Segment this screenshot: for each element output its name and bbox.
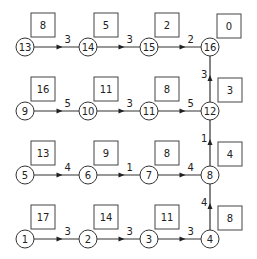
edge-8-12: 1 — [201, 120, 213, 166]
arrow-right-icon — [180, 109, 186, 114]
node-4: 4 — [201, 230, 219, 248]
node-value: 4 — [227, 149, 233, 160]
node-value: 8 — [40, 20, 46, 31]
node-12: 12 — [201, 102, 219, 120]
arrow-right-icon — [57, 173, 63, 178]
arrow-right-icon — [180, 45, 186, 50]
edge-12-16: 3 — [201, 56, 213, 102]
node-label: 11 — [143, 106, 156, 117]
node-value-box-5: 13 — [31, 141, 55, 165]
node-6: 6 — [79, 166, 97, 184]
node-label: 16 — [204, 42, 217, 53]
arrow-up-icon — [208, 203, 213, 209]
arrow-right-icon — [57, 237, 63, 242]
node-value-box-11: 8 — [155, 77, 179, 101]
node-value-box-4: 8 — [218, 206, 242, 230]
node-value-box-1: 17 — [31, 205, 55, 229]
node-label: 9 — [22, 106, 28, 117]
node-3: 3 — [140, 230, 158, 248]
network-diagram: 333441415353332 1714118139841611838520 1… — [0, 0, 257, 259]
node-value: 3 — [227, 85, 233, 96]
edge-weight: 4 — [188, 162, 194, 173]
arrow-up-icon — [208, 75, 213, 81]
node-5: 5 — [16, 166, 34, 184]
node-value-box-9: 16 — [31, 77, 55, 101]
edge-weight: 3 — [127, 98, 133, 109]
node-value: 8 — [164, 148, 170, 159]
edge-weight: 5 — [65, 98, 71, 109]
node-14: 14 — [79, 38, 97, 56]
node-label: 6 — [85, 170, 91, 181]
node-value-box-7: 8 — [155, 141, 179, 165]
node-value: 17 — [37, 212, 50, 223]
node-value-box-6: 9 — [94, 141, 118, 165]
arrow-right-icon — [119, 173, 125, 178]
edge-weight: 1 — [127, 162, 133, 173]
node-value-box-15: 2 — [155, 13, 179, 37]
node-label: 1 — [22, 234, 28, 245]
node-1: 1 — [16, 230, 34, 248]
edge-weight: 1 — [201, 133, 207, 144]
arrow-right-icon — [180, 173, 186, 178]
node-label: 12 — [204, 106, 217, 117]
arrow-right-icon — [57, 45, 63, 50]
edge-weight: 4 — [201, 197, 207, 208]
node-10: 10 — [79, 102, 97, 120]
node-label: 2 — [85, 234, 91, 245]
node-value-box-3: 11 — [155, 205, 179, 229]
node-value: 11 — [100, 84, 113, 95]
arrow-right-icon — [180, 237, 186, 242]
node-label: 13 — [19, 42, 32, 53]
node-label: 15 — [143, 42, 156, 53]
node-value: 11 — [161, 212, 174, 223]
edge-weight: 3 — [201, 69, 207, 80]
node-value-box-16: 0 — [217, 14, 241, 38]
node-value-box-10: 11 — [94, 77, 118, 101]
node-value-box-2: 14 — [94, 205, 118, 229]
node-value: 5 — [103, 20, 109, 31]
node-11: 11 — [140, 102, 158, 120]
node-label: 5 — [22, 170, 28, 181]
node-16: 16 — [201, 38, 219, 56]
node-value: 8 — [164, 84, 170, 95]
arrow-up-icon — [208, 139, 213, 145]
edge-weight: 4 — [65, 162, 71, 173]
node-value: 13 — [37, 148, 50, 159]
node-value: 16 — [37, 84, 50, 95]
edge-weight: 3 — [65, 226, 71, 237]
arrow-right-icon — [119, 237, 125, 242]
node-8: 8 — [201, 166, 219, 184]
node-label: 10 — [82, 106, 95, 117]
node-value: 0 — [226, 21, 232, 32]
node-value: 9 — [103, 148, 109, 159]
node-value: 8 — [227, 213, 233, 224]
arrow-right-icon — [119, 45, 125, 50]
node-15: 15 — [140, 38, 158, 56]
edge-weight: 3 — [65, 34, 71, 45]
edge-weight: 3 — [188, 226, 194, 237]
node-value: 14 — [100, 212, 113, 223]
node-value-box-8: 4 — [218, 142, 242, 166]
node-label: 3 — [146, 234, 152, 245]
node-13: 13 — [16, 38, 34, 56]
edge-weight: 3 — [127, 226, 133, 237]
edge-weight: 2 — [188, 34, 194, 45]
node-9: 9 — [16, 102, 34, 120]
node-value-box-13: 8 — [31, 13, 55, 37]
node-value: 2 — [164, 20, 170, 31]
node-label: 8 — [207, 170, 213, 181]
arrow-right-icon — [57, 109, 63, 114]
node-label: 4 — [207, 234, 213, 245]
node-label: 7 — [146, 170, 152, 181]
edge-weight: 5 — [188, 98, 194, 109]
node-label: 14 — [82, 42, 95, 53]
node-value-box-12: 3 — [218, 78, 242, 102]
node-7: 7 — [140, 166, 158, 184]
edge-4-8: 4 — [201, 184, 213, 230]
arrow-right-icon — [119, 109, 125, 114]
node-value-box-14: 5 — [94, 13, 118, 37]
edges-layer: 333441415353332 — [34, 34, 213, 242]
edge-weight: 3 — [127, 34, 133, 45]
node-2: 2 — [79, 230, 97, 248]
